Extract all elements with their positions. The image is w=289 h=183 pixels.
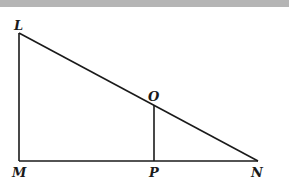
label-n: N — [250, 165, 264, 180]
label-m: M — [11, 165, 27, 180]
segment-ln — [19, 33, 258, 161]
label-p: P — [148, 165, 160, 180]
label-l: L — [13, 18, 23, 33]
label-o: O — [148, 89, 160, 104]
triangle-diagram: L M P N O — [0, 0, 289, 183]
